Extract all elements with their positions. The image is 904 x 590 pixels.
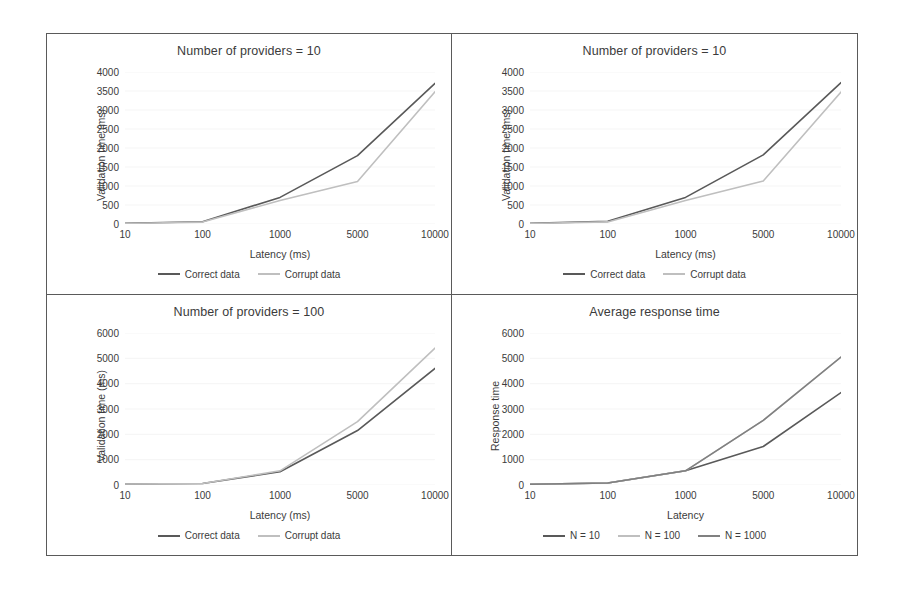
chart-legend: Correct dataCorrupt data [452,269,857,280]
legend-line-swatch-icon [158,273,180,275]
y-tick-label: 500 [507,200,524,211]
y-tick-label: 4000 [97,67,119,78]
y-tick-label: 3000 [97,403,119,414]
legend-line-swatch-icon [563,273,585,275]
plot-area: Response time010002000300040005000600010… [452,327,857,505]
legend-item[interactable]: Correct data [158,530,240,541]
x-tick-label: 10 [524,490,535,501]
plot-canvas [530,72,841,224]
y-tick-label: 2000 [502,428,524,439]
chart-panel-providers-100: Number of providers = 100Validation time… [47,295,452,556]
y-tick-label: 3000 [97,105,119,116]
y-tick-label: 3500 [502,86,524,97]
y-tick-label: 500 [102,200,119,211]
legend-item-label: Corrupt data [690,269,746,280]
series-line [125,92,435,224]
chart-legend: N = 10N = 100N = 1000 [452,530,857,541]
legend-line-swatch-icon [663,273,685,275]
series-line [530,357,841,484]
legend-item[interactable]: N = 10 [543,530,600,541]
x-tick-label: 5000 [346,229,368,240]
x-tick-label: 100 [194,490,211,501]
x-tick-label: 1000 [674,229,696,240]
x-axis-label: Latency (ms) [530,248,841,260]
x-axis-ticks: 101001000500010000 [125,490,435,506]
legend-item-label: Correct data [590,269,645,280]
figure-panel-grid: Number of providers = 10Validation time … [46,33,858,556]
legend-line-swatch-icon [698,535,720,537]
y-tick-label: 1000 [502,181,524,192]
legend-item-label: N = 100 [645,530,680,541]
plot-area: Validation time (ms)01000200030004000500… [47,327,451,505]
legend-item[interactable]: Corrupt data [663,269,746,280]
y-tick-label: 4000 [502,378,524,389]
plot-canvas [125,72,435,224]
legend-line-swatch-icon [618,535,640,537]
series-line [125,348,435,484]
x-tick-label: 10 [524,229,535,240]
x-tick-label: 1000 [269,229,291,240]
y-tick-label: 3000 [502,403,524,414]
plot-canvas [530,333,841,485]
y-axis-ticks: 05001000150020002500300035004000 [73,72,119,224]
legend-line-swatch-icon [258,535,280,537]
y-tick-label: 2500 [97,124,119,135]
legend-item[interactable]: Corrupt data [258,269,341,280]
y-axis-ticks: 0100020003000400050006000 [478,333,524,485]
y-tick-label: 6000 [502,327,524,338]
x-axis-label: Latency (ms) [125,509,435,521]
plot-canvas [125,333,435,485]
y-tick-label: 1000 [502,454,524,465]
series-line [530,83,841,224]
y-tick-label: 0 [113,219,119,230]
legend-item[interactable]: N = 100 [618,530,680,541]
y-tick-label: 0 [113,479,119,490]
y-tick-label: 5000 [502,352,524,363]
x-tick-label: 5000 [346,490,368,501]
y-tick-label: 4000 [502,67,524,78]
y-tick-label: 2000 [97,428,119,439]
y-tick-label: 2000 [502,143,524,154]
y-tick-label: 1000 [97,181,119,192]
series-line [530,92,841,223]
legend-item[interactable]: Correct data [563,269,645,280]
x-tick-label: 100 [194,229,211,240]
x-tick-label: 1000 [269,490,291,501]
chart-panel-providers-10-a: Number of providers = 10Validation time … [47,34,452,295]
x-tick-label: 5000 [752,229,774,240]
x-tick-label: 10000 [421,490,449,501]
y-tick-label: 6000 [97,327,119,338]
series-line [530,357,841,484]
legend-item[interactable]: Correct data [158,269,240,280]
x-tick-label: 1000 [674,490,696,501]
plot-area: Validation time (ms)05001000150020002500… [47,66,451,244]
legend-item-label: Correct data [185,530,240,541]
x-tick-label: 10 [119,229,130,240]
legend-line-swatch-icon [543,535,565,537]
y-tick-label: 1500 [502,162,524,173]
chart-panel-providers-10-b: Number of providers = 10Validation time … [452,34,857,295]
y-tick-label: 3000 [502,105,524,116]
x-tick-label: 10 [119,490,130,501]
legend-item-label: Correct data [185,269,240,280]
panel-title: Number of providers = 10 [47,44,451,58]
x-axis-ticks: 101001000500010000 [125,229,435,245]
x-tick-label: 100 [599,490,616,501]
legend-item-label: Corrupt data [285,530,341,541]
x-axis-label: Latency (ms) [125,248,435,260]
y-tick-label: 0 [518,219,524,230]
legend-item[interactable]: Corrupt data [258,530,341,541]
legend-line-swatch-icon [158,535,180,537]
legend-item[interactable]: N = 1000 [698,530,766,541]
x-tick-label: 10000 [421,229,449,240]
x-axis-ticks: 101001000500010000 [530,490,841,506]
series-line [125,368,435,484]
y-tick-label: 1500 [97,162,119,173]
legend-item-label: Corrupt data [285,269,341,280]
y-tick-label: 2500 [502,124,524,135]
x-axis-label: Latency [530,509,841,521]
y-tick-label: 3500 [97,86,119,97]
x-tick-label: 5000 [752,490,774,501]
plot-area: Validation time (ms)05001000150020002500… [452,66,857,244]
chart-legend: Correct dataCorrupt data [47,530,451,541]
